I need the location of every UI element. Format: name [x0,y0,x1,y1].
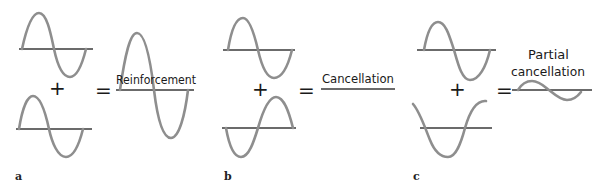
sine-wave [22,13,86,77]
panel-b-wave-1 [223,18,295,78]
wave-interference-diagram: + = Reinforcement a + = Cancellation [0,0,606,192]
panel-label-c: c [413,170,420,183]
panel-b-result: Cancellation [321,71,395,89]
equals-sign: = [298,78,315,102]
panel-a: + = Reinforcement a [15,13,196,183]
plus-sign: + [449,77,466,101]
inverted-sine-wave [226,97,293,157]
result-label-partial: Partial [528,47,569,62]
panel-b: + = Cancellation b [222,18,395,183]
panel-c-result: Partial cancellation [511,47,592,100]
panel-c-wave-2 [413,101,492,157]
panel-label-a: a [15,170,22,183]
panel-c-wave-1 [417,22,496,80]
result-label-cancellation: Cancellation [322,71,394,86]
panel-a-result: Reinforcement [116,33,196,138]
panel-label-b: b [224,170,232,183]
sine-wave [228,18,292,78]
panel-b-wave-2 [222,97,296,157]
result-label-cancellation: cancellation [511,64,585,79]
equals-sign: = [95,78,112,102]
panel-a-wave-1 [19,13,93,77]
sine-wave [424,22,490,80]
sine-wave [19,96,83,157]
plus-sign: + [252,77,269,101]
plus-sign: + [49,76,66,100]
panel-c: + = Partial cancellation c [413,22,592,183]
equals-sign: = [496,78,513,102]
phase-shifted-wave [413,101,486,157]
result-label-reinforcement: Reinforcement [116,72,196,87]
panel-a-wave-2 [16,96,92,157]
